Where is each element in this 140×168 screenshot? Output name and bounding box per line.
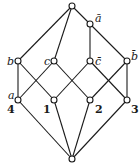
edge-n1-bottom [54, 100, 72, 159]
nodes-group [15, 3, 130, 162]
label-c: c [44, 55, 50, 68]
edges-group [18, 6, 127, 159]
label-cbar: c̄ [95, 55, 102, 68]
edge-top-b [18, 6, 72, 61]
node-bottom [69, 156, 75, 162]
node-b [15, 58, 21, 64]
node-n1 [51, 97, 57, 103]
label-abar: ā [95, 12, 102, 25]
label-b: b [7, 55, 14, 68]
node-bbar [124, 58, 130, 64]
label-2: 2 [95, 103, 103, 116]
label-1: 1 [43, 103, 51, 116]
node-abar [87, 21, 93, 27]
node-n3 [124, 97, 130, 103]
node-n2 [87, 97, 93, 103]
label-3: 3 [131, 103, 139, 116]
label-bbar: b̄ [131, 50, 138, 63]
labels-group: ā b c c̄ b̄ a 4 1 2 3 [7, 12, 139, 116]
node-top [69, 3, 75, 9]
node-c [51, 58, 57, 64]
label-a: a [8, 89, 15, 102]
node-n4 [15, 97, 21, 103]
label-4: 4 [7, 103, 15, 116]
lattice-diagram: ā b c c̄ b̄ a 4 1 2 3 [0, 0, 140, 168]
edge-top-c [54, 6, 72, 61]
edge-top-abar [72, 6, 90, 24]
node-cbar [87, 58, 93, 64]
